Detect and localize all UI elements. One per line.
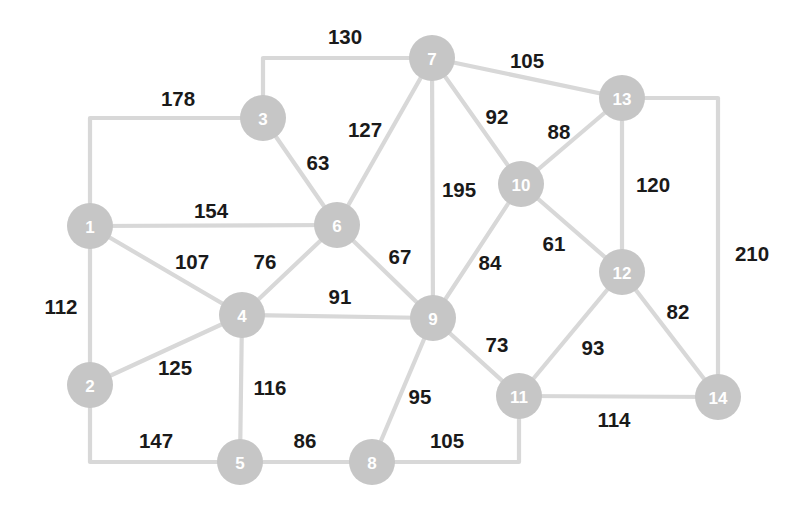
node-14[interactable]: 14 — [695, 374, 741, 420]
node-label-14: 14 — [709, 389, 728, 408]
edge-weight-9-8: 95 — [409, 385, 432, 408]
graph-canvas: 1234567891011121314 13010517863127928812… — [0, 0, 800, 511]
edge-weight-8-11: 105 — [430, 429, 464, 452]
node-label-6: 6 — [332, 217, 341, 236]
edge-weight-12-14: 82 — [667, 300, 690, 323]
edge-7-9 — [432, 58, 433, 318]
node-label-11: 11 — [510, 388, 528, 407]
edge-weight-10-12: 61 — [543, 232, 566, 255]
node-label-9: 9 — [428, 310, 437, 329]
edge-4-9 — [242, 315, 433, 318]
edge-12-14 — [622, 272, 718, 397]
node-label-1: 1 — [85, 218, 94, 237]
edge-weight-2-5: 147 — [139, 429, 173, 452]
node-label-13: 13 — [613, 90, 632, 109]
node-11[interactable]: 11 — [496, 373, 542, 419]
node-7[interactable]: 7 — [409, 35, 455, 81]
edge-weight-3-7: 130 — [328, 25, 362, 48]
edge-13-14 — [622, 98, 718, 397]
node-8[interactable]: 8 — [349, 439, 395, 485]
edge-weight-2-4: 125 — [158, 356, 192, 379]
node-4[interactable]: 4 — [219, 292, 265, 338]
edge-weight-11-14: 114 — [597, 408, 631, 431]
edge-weight-labels-layer: 1301051786312792881202101541951077667846… — [44, 25, 769, 452]
edge-11-14 — [519, 396, 718, 397]
edge-1-3 — [90, 118, 263, 226]
node-10[interactable]: 10 — [498, 161, 544, 207]
node-label-8: 8 — [367, 454, 376, 473]
weighted-graph-svg: 1234567891011121314 13010517863127928812… — [0, 0, 800, 511]
node-3[interactable]: 3 — [240, 95, 286, 141]
edge-weight-13-12: 120 — [636, 173, 670, 196]
node-label-10: 10 — [512, 176, 531, 195]
node-13[interactable]: 13 — [599, 75, 645, 121]
edge-6-7 — [337, 58, 432, 225]
node-label-2: 2 — [85, 377, 94, 396]
edge-weight-7-13: 105 — [510, 49, 544, 72]
node-label-5: 5 — [235, 454, 244, 473]
node-1[interactable]: 1 — [67, 203, 113, 249]
edge-weight-6-9: 67 — [389, 245, 412, 268]
edge-weight-7-10: 92 — [486, 105, 509, 128]
edge-11-12 — [519, 272, 622, 396]
edge-weight-4-9: 91 — [329, 285, 352, 308]
node-label-12: 12 — [613, 264, 632, 283]
edge-weight-3-6: 63 — [307, 151, 330, 174]
node-label-7: 7 — [427, 50, 436, 69]
edge-weight-5-8: 86 — [294, 429, 317, 452]
edge-weight-1-2: 112 — [44, 295, 77, 318]
edge-weight-10-13: 88 — [548, 120, 571, 143]
node-2[interactable]: 2 — [67, 362, 113, 408]
edge-weight-7-9: 195 — [442, 178, 476, 201]
edge-1-6 — [90, 225, 337, 226]
node-12[interactable]: 12 — [599, 249, 645, 295]
edge-weight-1-4: 107 — [175, 250, 209, 273]
edge-weight-11-12: 93 — [582, 336, 605, 359]
edge-weight-13-14: 210 — [735, 242, 769, 265]
edge-weight-1-3: 178 — [161, 87, 195, 110]
edge-weight-9-10: 84 — [479, 251, 502, 274]
node-6[interactable]: 6 — [314, 202, 360, 248]
node-9[interactable]: 9 — [410, 295, 456, 341]
node-label-3: 3 — [258, 110, 267, 129]
edge-1-4 — [90, 226, 242, 315]
node-label-4: 4 — [237, 307, 247, 326]
edge-weight-9-11: 73 — [486, 333, 509, 356]
edge-weight-4-5: 116 — [253, 376, 286, 399]
edge-weight-1-6: 154 — [194, 199, 229, 222]
edge-9-10 — [433, 184, 521, 318]
node-5[interactable]: 5 — [217, 439, 263, 485]
edge-3-7 — [263, 58, 432, 118]
edge-weight-4-6: 76 — [254, 250, 277, 273]
edge-weight-6-7: 127 — [348, 118, 382, 141]
